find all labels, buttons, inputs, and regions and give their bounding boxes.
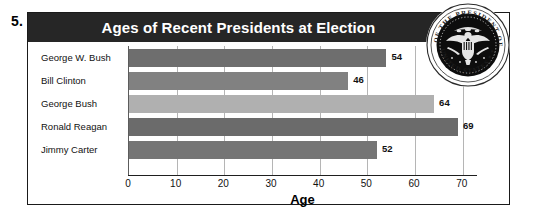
x-tick-label: 20 bbox=[208, 178, 238, 189]
bar-value-label: 64 bbox=[439, 94, 450, 112]
category-label: Ronald Reagan bbox=[41, 115, 141, 138]
category-label: George Bush bbox=[41, 92, 141, 115]
presidential-seal-icon: SEAL OF THE PRESIDENT OF THE UNITED STAT… bbox=[424, 1, 512, 89]
x-tick-label: 40 bbox=[304, 178, 334, 189]
chart-title-bar: Ages of Recent Presidents at Election bbox=[28, 13, 449, 42]
bar[interactable] bbox=[129, 72, 348, 90]
x-tick-label: 50 bbox=[351, 178, 381, 189]
bar[interactable] bbox=[129, 49, 386, 67]
bar-row: 64 bbox=[129, 92, 477, 115]
category-axis-labels: George W. BushBill ClintonGeorge BushRon… bbox=[29, 42, 128, 175]
x-tick-label: 30 bbox=[256, 178, 286, 189]
question-number: 5. bbox=[11, 13, 23, 29]
bar-value-label: 46 bbox=[353, 71, 364, 89]
bar-value-label: 52 bbox=[382, 140, 393, 158]
x-tick-label: 10 bbox=[161, 178, 191, 189]
bar[interactable] bbox=[129, 141, 377, 159]
bar-row: 52 bbox=[129, 138, 477, 161]
bar-value-label: 69 bbox=[463, 117, 474, 135]
x-tick-label: 70 bbox=[447, 178, 477, 189]
bar-value-label: 54 bbox=[391, 48, 402, 66]
x-tick-label: 0 bbox=[113, 178, 143, 189]
category-label: George W. Bush bbox=[41, 46, 141, 69]
bar-row: 69 bbox=[129, 115, 477, 138]
bar[interactable] bbox=[129, 95, 434, 113]
x-tick-label: 60 bbox=[399, 178, 429, 189]
bar[interactable] bbox=[129, 118, 458, 136]
x-axis-title: Age bbox=[128, 192, 477, 207]
category-label: Jimmy Carter bbox=[41, 138, 141, 161]
chart-title: Ages of Recent Presidents at Election bbox=[28, 13, 449, 42]
x-axis-line bbox=[128, 175, 477, 176]
category-label: Bill Clinton bbox=[41, 69, 141, 92]
